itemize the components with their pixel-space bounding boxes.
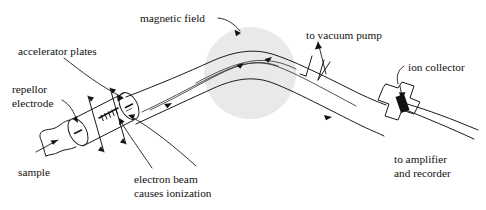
label-vacuum-pump: to vacuum pump: [306, 29, 382, 41]
label-sample: sample: [18, 166, 50, 178]
label-repellor-electrode-line2: electrode: [12, 97, 53, 109]
leader-ion-collector: [397, 66, 404, 84]
label-magnetic-field: magnetic field: [140, 12, 205, 24]
label-amplifier-line2: and recorder: [394, 167, 451, 179]
label-electron-beam-line2: causes ionization: [134, 187, 212, 199]
mass-spectrometer-diagram: magnetic field accelerator plates repell…: [0, 0, 486, 210]
leader-electron-beam-secondary: [128, 114, 196, 166]
label-ion-collector: ion collector: [408, 61, 465, 73]
sample-inlet-neck: [36, 120, 76, 156]
label-repellor-electrode-line1: repellor: [12, 83, 47, 95]
label-accelerator-plates: accelerator plates: [18, 45, 97, 57]
label-amplifier-line1: to amplifier: [394, 153, 447, 165]
schematic-canvas: magnetic field accelerator plates repell…: [0, 0, 486, 210]
ion-collector-housing: [378, 82, 420, 120]
label-electron-beam-line1: electron beam: [134, 173, 198, 185]
magnetic-field-circle: [204, 27, 296, 119]
leader-accelerator-plates: [64, 58, 124, 102]
vacuum-pump-port: [300, 42, 330, 80]
